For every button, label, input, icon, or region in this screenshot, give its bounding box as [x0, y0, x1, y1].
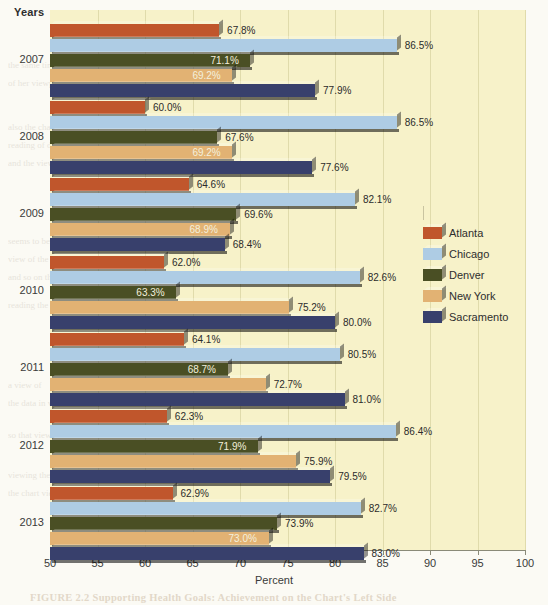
bar-value-label: 77.9% [323, 85, 351, 96]
bar-value-label: 69.2% [192, 70, 220, 81]
x-axis-tick [525, 550, 526, 555]
legend-item-atlanta[interactable]: Atlanta [423, 222, 533, 243]
bar-fill [50, 271, 360, 284]
bar-fill [50, 256, 164, 269]
bar-value-label: 86.4% [404, 426, 432, 437]
legend-item-label: Chicago [449, 248, 489, 260]
bar-value-label: 62.0% [172, 257, 200, 268]
x-axis-tick [478, 550, 479, 555]
bar[interactable] [50, 161, 312, 174]
x-axis-tick-label: 90 [424, 557, 436, 569]
x-axis-title: Percent [0, 574, 548, 586]
legend-swatch-icon [423, 269, 442, 281]
bar-fill [50, 348, 340, 361]
bar-fill [50, 333, 184, 346]
y-axis-title: Years [14, 6, 44, 18]
bar-value-label: 60.0% [153, 102, 181, 113]
legend-item-new-york[interactable]: New York [423, 285, 533, 306]
bar-fill [50, 316, 335, 329]
bar-value-label: 79.5% [338, 471, 366, 482]
legend-swatch-icon [423, 290, 442, 302]
bar-shadow [52, 560, 366, 563]
legend-swatch-icon [423, 227, 442, 239]
bar[interactable] [50, 316, 335, 329]
bar-value-label: 68.9% [190, 224, 218, 235]
x-axis-tick-label: 95 [471, 557, 483, 569]
bar-value-label: 71.9% [218, 441, 246, 452]
bar-value-label: 80.5% [348, 349, 376, 360]
bar[interactable] [50, 271, 360, 284]
legend-swatch-icon [423, 311, 442, 323]
legend-item-sacramento[interactable]: Sacramento [423, 306, 533, 327]
bar-fill [50, 393, 345, 406]
bar[interactable] [50, 470, 330, 483]
bar[interactable] [50, 378, 266, 391]
y-axis-year-label: 2011 [0, 361, 44, 373]
bar-fill [50, 84, 315, 97]
bar-value-label: 64.6% [197, 179, 225, 190]
legend-item-label: New York [449, 290, 495, 302]
bar-value-label: 81.0% [353, 394, 381, 405]
bar-fill [50, 470, 330, 483]
bar[interactable] [50, 238, 225, 251]
bar-value-label: 86.5% [405, 40, 433, 51]
bar-value-label: 69.2% [192, 147, 220, 158]
y-axis-year-label: 2008 [0, 130, 44, 142]
x-axis-tick [430, 550, 431, 555]
bar-value-label: 77.6% [320, 162, 348, 173]
bar-value-label: 63.3% [136, 287, 164, 298]
bar-fill [50, 238, 225, 251]
bar-value-label: 80.0% [343, 317, 371, 328]
bar-fill [50, 547, 364, 560]
bar-value-label: 69.6% [244, 209, 272, 220]
bar-value-label: 64.1% [192, 334, 220, 345]
y-axis-year-label: 2009 [0, 207, 44, 219]
bar-value-label: 73.0% [229, 533, 257, 544]
bar-value-label: 82.7% [369, 503, 397, 514]
y-axis-year-label: 2007 [0, 53, 44, 65]
legend-swatch-icon [423, 248, 442, 260]
y-axis-year-label: 2012 [0, 439, 44, 451]
bar-value-label: 86.5% [405, 117, 433, 128]
bar-value-label: 82.6% [368, 272, 396, 283]
bar-value-label: 75.9% [304, 456, 332, 467]
bar-value-label: 62.3% [175, 411, 203, 422]
x-axis-tick-label: 100 [516, 557, 534, 569]
legend-divider [423, 206, 424, 220]
grouped-bar-chart: Years Percent AtlantaChicagoDenverNew Yo… [0, 0, 548, 605]
bar-value-label: 73.9% [285, 518, 313, 529]
bar-fill [50, 301, 289, 314]
bar[interactable] [50, 256, 164, 269]
y-axis-year-label: 2010 [0, 284, 44, 296]
bar[interactable] [50, 547, 364, 560]
bar-value-label: 82.1% [363, 194, 391, 205]
chart-legend: AtlantaChicagoDenverNew YorkSacramento [423, 222, 533, 327]
y-axis-year-label: 2013 [0, 516, 44, 528]
bar-value-label: 67.6% [225, 132, 253, 143]
legend-item-label: Atlanta [449, 227, 483, 239]
bar-value-label: 75.2% [297, 302, 325, 313]
legend-item-chicago[interactable]: Chicago [423, 243, 533, 264]
bar[interactable] [50, 348, 340, 361]
legend-item-label: Sacramento [449, 311, 508, 323]
legend-item-label: Denver [449, 269, 484, 281]
bar[interactable] [50, 333, 184, 346]
bar-value-label: 67.8% [227, 25, 255, 36]
bar-value-label: 68.4% [233, 239, 261, 250]
bar-value-label: 83.0% [372, 548, 400, 559]
bar-value-label: 68.7% [188, 364, 216, 375]
legend-item-denver[interactable]: Denver [423, 264, 533, 285]
bar-value-label: 72.7% [274, 379, 302, 390]
bar-value-label: 62.9% [181, 488, 209, 499]
bar[interactable] [50, 393, 345, 406]
bar[interactable] [50, 301, 289, 314]
bar[interactable] [50, 84, 315, 97]
bar-fill [50, 378, 266, 391]
bar-fill [50, 161, 312, 174]
